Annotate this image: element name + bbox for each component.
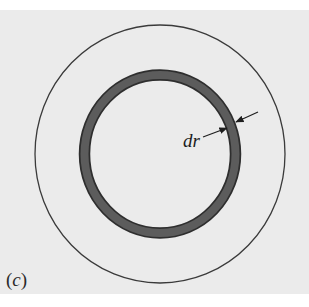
dr-annotation-label: dr: [183, 131, 200, 150]
figure-canvas: dr (c): [0, 0, 309, 307]
shell-ring: [85, 75, 236, 233]
panel-label-letter: c: [12, 269, 20, 290]
panel-label-close-paren: ): [21, 269, 27, 290]
outer-circle: [35, 25, 285, 283]
panel-label: (c): [6, 270, 27, 289]
spherical-shell-diagram: [0, 0, 309, 307]
arrow-outer-icon: [236, 112, 258, 122]
arrow-inner-icon: [203, 128, 227, 137]
